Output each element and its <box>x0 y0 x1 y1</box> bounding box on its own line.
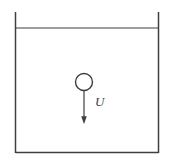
velocity-arrow-head-icon <box>81 116 87 124</box>
tank-diagram-svg: U <box>0 0 174 163</box>
sphere <box>76 74 93 91</box>
physics-diagram: U <box>0 0 174 163</box>
velocity-label: U <box>95 94 106 109</box>
